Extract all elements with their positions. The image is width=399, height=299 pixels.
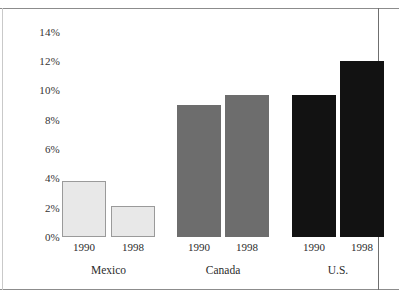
bar-canada-1998[interactable]	[225, 95, 269, 237]
bar-canada-1990[interactable]	[177, 105, 221, 237]
x-axis-year-label: 1990	[177, 241, 221, 253]
x-axis-year-label: 1990	[292, 241, 336, 253]
x-axis-group-label-mexico: Mexico	[62, 264, 155, 277]
x-axis-year-label: 1998	[340, 241, 384, 253]
bar-us-1998[interactable]	[340, 61, 384, 237]
y-axis-tick-label: 4%	[6, 173, 60, 184]
bar-mexico-1998[interactable]	[111, 206, 155, 237]
y-axis-tick-label: 12%	[6, 56, 60, 67]
y-axis-tick-label: 2%	[6, 203, 60, 214]
y-axis-tick-label: 14%	[6, 27, 60, 38]
bar-us-1990[interactable]	[292, 95, 336, 237]
y-axis-tick-label: 6%	[6, 144, 60, 155]
x-axis-group-label-canada: Canada	[177, 264, 269, 277]
y-axis-tick-label: 8%	[6, 115, 60, 126]
bar-mexico-1990[interactable]	[62, 181, 106, 237]
x-axis-group-label-us: U.S.	[292, 264, 384, 277]
chart-figure: 14% 12% 10% 8% 6% 4% 2% 0% 1990 1998 199…	[0, 0, 399, 299]
y-axis-tick-label: 10%	[6, 85, 60, 96]
plot-area: 14% 12% 10% 8% 6% 4% 2% 0% 1990 1998 199…	[0, 0, 399, 299]
x-axis-year-label: 1990	[62, 241, 106, 253]
x-axis-year-label: 1998	[111, 241, 155, 253]
y-axis-tick-label: 0%	[6, 232, 60, 243]
x-axis-year-label: 1998	[225, 241, 269, 253]
